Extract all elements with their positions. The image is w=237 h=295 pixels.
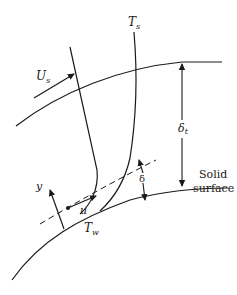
wall-temperature-label: Tw (84, 221, 99, 237)
solid-surface-curve (12, 188, 228, 280)
velocity-thickness-arrow-up (139, 160, 143, 173)
velocity-label: u (80, 204, 87, 217)
solid-surface-label-line2: surface (193, 182, 234, 195)
solid-surface-label-line1: Solid (199, 168, 227, 181)
boundary-layer-diagram: Us Ts δt δ y u Tw Solid surface (0, 0, 237, 295)
temperature-profile (100, 32, 136, 211)
free-stream-velocity-label: Us (36, 69, 50, 85)
normal-coordinate-arrow (50, 190, 64, 229)
velocity-thickness-arrow-down (143, 183, 145, 200)
free-stream-temperature-label: Ts (128, 15, 140, 31)
thermal-thickness-label: δt (178, 122, 189, 136)
velocity-thickness-label: δ (139, 173, 145, 184)
normal-coordinate-label: y (35, 180, 43, 193)
velocity-boundary-edge (40, 160, 156, 224)
velocity-profile (70, 47, 97, 214)
thermal-boundary-edge (16, 62, 222, 126)
